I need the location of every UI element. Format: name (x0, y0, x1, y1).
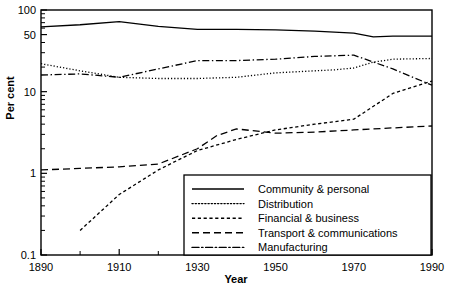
y-axis-tick-labels: 0.111050100 (18, 4, 36, 261)
series-line (41, 22, 432, 37)
y-tick-label: 10 (24, 86, 36, 98)
legend-label: Financial & business (258, 212, 359, 224)
line-chart: Per cent Year 0.111050100 18901910193019… (0, 0, 450, 294)
x-tick-label: 1930 (185, 261, 209, 273)
x-axis-tick-labels: 189019101930195019701990 (29, 261, 444, 273)
series-line (41, 126, 432, 170)
y-tick-label: 50 (24, 29, 36, 41)
legend-label: Transport & communications (258, 227, 398, 239)
x-tick-label: 1950 (263, 261, 287, 273)
x-tick-label: 1910 (107, 261, 131, 273)
series-line (41, 55, 432, 85)
legend-label: Community & personal (258, 183, 369, 195)
x-tick-label: 1970 (342, 261, 366, 273)
chart-figure: Per cent Year 0.111050100 18901910193019… (0, 0, 450, 294)
x-tick-label: 1890 (29, 261, 53, 273)
legend-label: Manufacturing (258, 241, 328, 253)
legend-label: Distribution (258, 198, 313, 210)
y-tick-label: 0.1 (21, 249, 36, 261)
y-tick-label: 100 (18, 4, 36, 16)
x-axis-title: Year (224, 273, 248, 285)
x-tick-label: 1990 (420, 261, 444, 273)
y-tick-label: 1 (30, 167, 36, 179)
y-axis-title: Per cent (4, 76, 16, 120)
chart-legend: Community & personalDistributionFinancia… (184, 175, 431, 255)
y-axis-ticks (41, 10, 47, 255)
